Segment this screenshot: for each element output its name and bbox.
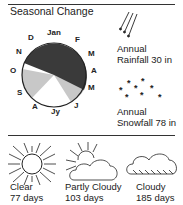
svg-text:*: * (134, 83, 138, 93)
clear-days: 77 days (10, 192, 43, 203)
month-label-mar: M (88, 49, 95, 58)
partly-cloudy-days: 103 days (65, 192, 104, 203)
cloudy-days: 185 days (136, 192, 175, 203)
month-label-apr: A (91, 66, 97, 75)
snow-icon: ** *** *** (115, 78, 175, 108)
month-label-aug: A (32, 102, 38, 111)
month-label-oct: O (10, 66, 16, 75)
svg-text:*: * (125, 92, 129, 102)
cloudy-label: Cloudy (136, 181, 166, 192)
partly-cloudy-label: Partly Cloudy (65, 181, 122, 192)
rainfall-label-line1: Annual (117, 43, 147, 54)
month-label-jul: Jy (51, 107, 60, 116)
clear-label: Clear (10, 181, 33, 192)
snowfall-label-line1: Annual (117, 106, 147, 117)
svg-text:*: * (150, 83, 154, 93)
month-label-may: M (88, 83, 95, 92)
snowfall-value: Snowfall 78 in (117, 117, 176, 128)
svg-text:*: * (119, 85, 123, 95)
month-label-sep: S (17, 88, 22, 97)
month-label-nov: N (16, 47, 22, 56)
svg-text:*: * (127, 78, 131, 88)
middle-rule (8, 135, 175, 136)
month-label-jan: Jan (47, 28, 61, 37)
svg-text:*: * (158, 92, 162, 102)
month-label-jun: J (74, 101, 78, 110)
month-label-feb: F (75, 35, 80, 44)
rainfall-value: Rainfall 30 in (117, 54, 172, 65)
svg-text:*: * (140, 90, 144, 100)
svg-text:*: * (141, 76, 145, 86)
month-label-dec: D (28, 33, 34, 42)
rain-icon (117, 10, 147, 40)
